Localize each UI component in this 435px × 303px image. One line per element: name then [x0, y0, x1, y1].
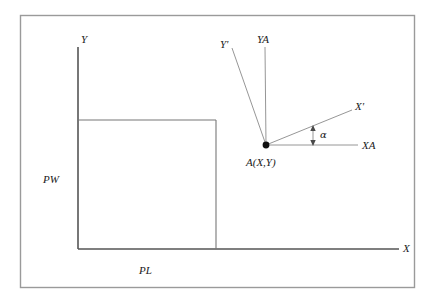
- point-a-marker: [263, 142, 270, 149]
- figure-container: Y X PW PL Y' YA X' XA A(X,Y) α: [0, 0, 435, 303]
- angle-arrow-head-top: [310, 125, 315, 131]
- figure-border: [21, 16, 415, 288]
- local-x-prime-axis-line: [266, 110, 352, 145]
- global-x-axis-label: X: [402, 242, 411, 254]
- point-a-label: A(X,Y): [245, 156, 276, 169]
- coordinate-system-diagram: Y X PW PL Y' YA X' XA A(X,Y) α: [0, 0, 435, 303]
- local-ya-axis-line: [265, 47, 266, 145]
- local-x-prime-label: X': [354, 100, 365, 112]
- part-width-label: PW: [42, 173, 60, 185]
- local-ya-label: YA: [257, 33, 269, 45]
- angle-alpha-label: α: [320, 129, 327, 140]
- local-xa-label: XA: [361, 139, 376, 151]
- part-length-label: PL: [138, 264, 152, 276]
- local-y-prime-label: Y': [220, 38, 229, 50]
- global-y-axis-label: Y: [81, 33, 89, 45]
- local-y-prime-axis-line: [232, 48, 266, 145]
